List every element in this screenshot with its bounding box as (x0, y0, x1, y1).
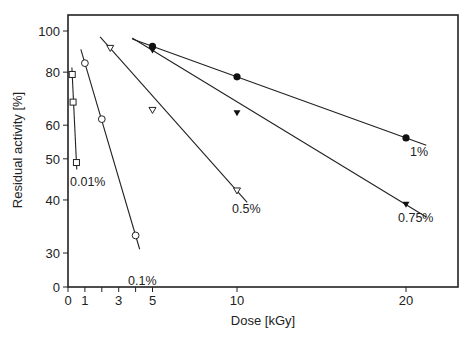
series-line (132, 39, 426, 145)
data-point-marker (69, 71, 75, 77)
y-tick-label: 40 (46, 193, 60, 208)
series-line (72, 67, 77, 169)
y-axis-label: Residual activity [%] (10, 92, 25, 208)
data-point-marker (82, 60, 89, 67)
series-line (100, 37, 247, 202)
x-axis-label: Dose [kGy] (231, 313, 295, 328)
data-point-marker (234, 110, 241, 116)
data-point-marker (70, 99, 76, 105)
x-tick-label: 5 (149, 293, 156, 308)
series-lines (72, 37, 426, 249)
axis-ticks: 0135102003040506080100 (38, 24, 413, 308)
x-tick-label: 10 (230, 293, 244, 308)
series-labels: 0.01%0.1%0.5%0.75%1% (70, 145, 433, 288)
chart: 0135102003040506080100 0.01%0.1%0.5%0.75… (0, 0, 472, 345)
x-tick-label: 0 (64, 293, 71, 308)
data-point-marker (149, 107, 156, 113)
data-point-marker (149, 43, 156, 50)
y-tick-label: 0 (53, 280, 60, 295)
data-point-marker (402, 134, 409, 141)
y-tick-label: 60 (46, 118, 60, 133)
series-label: 0.1% (128, 274, 157, 288)
y-tick-label: 30 (46, 246, 60, 261)
data-point-marker (132, 232, 139, 239)
y-tick-label: 100 (38, 24, 60, 39)
series-label: 0.01% (70, 175, 105, 189)
plot-frame (68, 15, 458, 287)
data-point-marker (233, 73, 240, 80)
series-label: 0.75% (398, 211, 433, 225)
x-tick-label: 3 (115, 293, 122, 308)
y-tick-label: 80 (46, 65, 60, 80)
data-point-marker (73, 160, 79, 166)
series-label: 1% (410, 145, 428, 159)
x-tick-label: 1 (81, 293, 88, 308)
series-label: 0.5% (232, 202, 261, 216)
series-line (132, 38, 426, 217)
series-line (81, 49, 140, 249)
x-tick-label: 20 (399, 293, 413, 308)
data-point-marker (98, 116, 105, 123)
y-tick-label: 50 (46, 152, 60, 167)
